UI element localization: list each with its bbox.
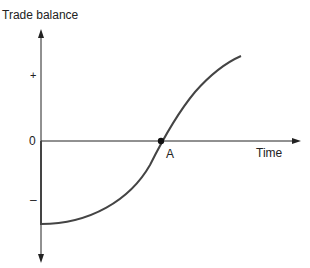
y-tick-zero: 0 xyxy=(29,134,36,148)
y-axis-label: Trade balance xyxy=(2,8,78,22)
j-curve xyxy=(41,56,241,224)
y-tick-plus: + xyxy=(30,69,36,81)
y-axis-down-arrow-icon xyxy=(38,254,44,263)
x-axis-arrow-icon xyxy=(292,138,301,144)
y-tick-minus: – xyxy=(30,193,37,207)
point-a-marker xyxy=(158,138,164,144)
y-axis-up-arrow-icon xyxy=(38,29,44,38)
x-axis-label: Time xyxy=(256,146,282,160)
point-a-label: A xyxy=(166,147,174,161)
j-curve-diagram xyxy=(0,0,310,268)
